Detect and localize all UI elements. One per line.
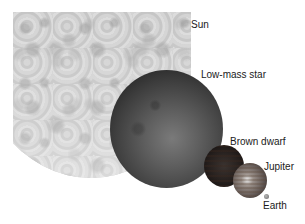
earth-label: Earth [263,200,287,212]
low-mass-star-label: Low-mass star [201,69,266,81]
jupiter-body [233,163,267,198]
brown-dwarf-label: Brown dwarf [230,136,286,148]
earth-body [264,194,269,199]
sun-label: Sun [191,19,209,31]
jupiter-label: Jupiter [264,161,294,173]
size-comparison-diagram: Sun Low-mass star Brown dwarf Jupiter Ea… [0,0,305,224]
